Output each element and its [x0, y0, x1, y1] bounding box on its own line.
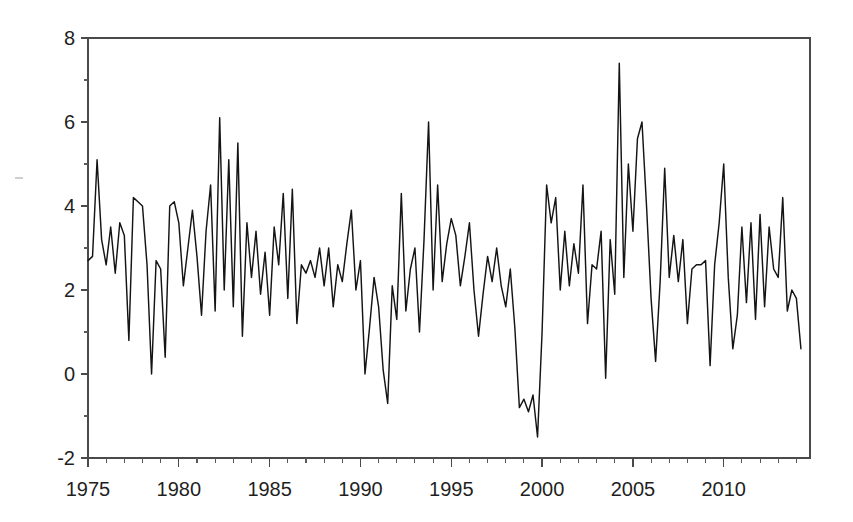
y-tick-label: -2	[57, 447, 75, 469]
y-tick-label: 0	[64, 363, 75, 385]
x-tick-label: 2005	[611, 478, 656, 500]
y-tick-label: 6	[64, 111, 75, 133]
x-tick-label: 1995	[429, 478, 474, 500]
x-tick-label: 1980	[157, 478, 202, 500]
y-tick-label: 8	[64, 27, 75, 49]
line-chart: -202468 19751980198519901995200020052010	[0, 0, 853, 522]
y-tick-label: 4	[64, 195, 75, 217]
scan-artifact-speck	[15, 177, 23, 179]
x-tick-label: 1990	[338, 478, 383, 500]
y-tick-label: 2	[64, 279, 75, 301]
chart-background	[0, 0, 853, 522]
x-tick-label: 1975	[66, 478, 111, 500]
x-tick-label: 2000	[520, 478, 565, 500]
x-tick-label: 2010	[701, 478, 746, 500]
x-tick-label: 1985	[247, 478, 292, 500]
chart-figure: -202468 19751980198519901995200020052010	[0, 0, 853, 522]
